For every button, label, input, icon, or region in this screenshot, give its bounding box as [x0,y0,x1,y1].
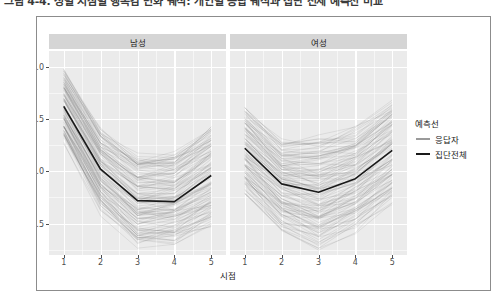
figure-caption: 그림 4-4. 성별 시점별 행복감 변화 궤적: 개인별 응답 궤적과 집단 … [4,0,382,8]
legend-key-respondent [415,134,431,144]
legend-item-group-total: 집단전체 [415,148,489,160]
figure-caption-strip: 그림 4-4. 성별 시점별 행복감 변화 궤적: 개인별 응답 궤적과 집단 … [0,0,499,11]
trajectory-lines [49,51,226,255]
y-tick-label: 3.5 [36,115,44,124]
x-tick-label: 5 [390,258,395,267]
x-axis-male: 12345 [49,255,226,267]
x-tick-label: 3 [135,258,140,267]
legend-label-respondent: 응답자 [435,133,459,145]
x-axis-female: 12345 [230,255,407,267]
legend-item-respondent: 응답자 [415,133,489,145]
y-axis: 4.03.53.02.5 [37,51,49,255]
y-tick-label: 4.0 [36,62,44,71]
plot-panel-male [49,51,226,255]
x-tick-label: 5 [209,258,214,267]
x-tick-label: 2 [98,258,103,267]
x-tick-label: 4 [353,258,358,267]
facet-strip-label-female: 여성 [311,36,327,48]
x-axis-title: 시점 [49,269,407,281]
legend-label-group-total: 집단전체 [435,148,467,160]
x-tick-label: 1 [242,258,247,267]
y-tick-label: 2.5 [36,219,44,228]
x-tick-label: 4 [172,258,177,267]
trajectory-lines [230,51,407,255]
legend-title: 예측선 [415,117,489,129]
y-tick-label: 3.0 [36,167,44,176]
figure-frame: 4.03.53.02.5 행복감 남성 여성 12345 12345 시점 예측… [36,16,491,291]
x-tick-label: 2 [279,258,284,267]
x-tick-label: 1 [61,258,66,267]
facet-strip-male: 남성 [49,34,226,49]
legend: 예측선 응답자 집단전체 [415,117,489,163]
legend-key-group-total [415,149,431,159]
facet-strip-female: 여성 [230,34,407,49]
x-tick-label: 3 [316,258,321,267]
plot-panel-female [230,51,407,255]
facet-strip-label-male: 남성 [130,36,146,48]
